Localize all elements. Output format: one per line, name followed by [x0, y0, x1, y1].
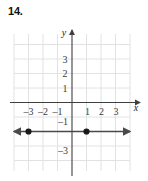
exercise-figure: 14. — [0, 0, 148, 181]
plot-point — [83, 128, 89, 134]
y-tick-label: –1 — [57, 116, 68, 127]
x-tick-label: 1 — [85, 106, 90, 117]
axes — [10, 30, 140, 176]
x-tick-label: 3 — [114, 106, 119, 117]
x-tick-label: –2 — [37, 106, 48, 117]
x-tick-labels: –3 –2 –1 1 2 3 — [23, 106, 119, 117]
y-tick-label: 2 — [63, 68, 68, 79]
plot-point — [25, 128, 31, 134]
y-axis-label: y — [61, 27, 67, 38]
graph-svg: x y –3 –2 –1 1 2 3 3 2 1 –1 –3 — [0, 26, 148, 181]
x-tick-label: –3 — [23, 106, 34, 117]
x-tick-label: –1 — [52, 106, 63, 117]
x-tick-label: 2 — [99, 106, 104, 117]
y-tick-label: 3 — [63, 54, 68, 65]
problem-number: 14. — [8, 5, 23, 17]
y-tick-label: 1 — [63, 83, 68, 94]
coordinate-plane-graph: x y –3 –2 –1 1 2 3 3 2 1 –1 –3 — [0, 26, 148, 181]
x-axis-label: x — [133, 102, 139, 113]
y-tick-label: –3 — [57, 145, 68, 156]
